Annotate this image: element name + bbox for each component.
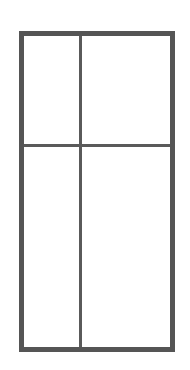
- drawing-canvas: [0, 0, 190, 370]
- outer-frame-outline: [19, 31, 175, 352]
